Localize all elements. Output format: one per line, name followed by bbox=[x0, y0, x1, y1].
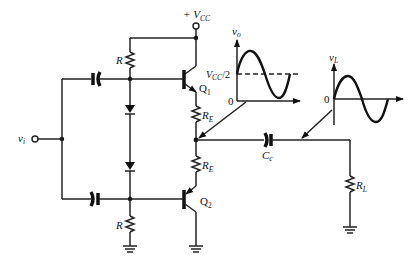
svg-text:Q2: Q2 bbox=[200, 195, 212, 210]
vcc-terminal: + VCC bbox=[183, 8, 211, 38]
svg-text:Q1: Q1 bbox=[199, 82, 211, 97]
svg-text:VCC/2: VCC/2 bbox=[206, 69, 230, 82]
capacitor-input-bottom bbox=[91, 192, 98, 206]
svg-text:R: R bbox=[115, 54, 123, 66]
svg-text:+ VCC: + VCC bbox=[183, 8, 211, 23]
ground-icon-r bbox=[123, 246, 137, 252]
capacitor-input-top bbox=[93, 72, 100, 86]
svg-text:RL: RL bbox=[355, 179, 367, 194]
waveform-vl: vL 0 bbox=[324, 51, 403, 125]
resistor-r-bottom: R bbox=[115, 199, 134, 246]
svg-text:vi: vi bbox=[18, 132, 25, 146]
svg-text:vL: vL bbox=[329, 51, 338, 65]
input-terminal: vi bbox=[18, 132, 64, 146]
diode-d2 bbox=[125, 162, 135, 171]
resistor-r-top: R bbox=[115, 38, 134, 79]
top-rail-wire bbox=[130, 36, 198, 66]
vl-pointer-arrow bbox=[302, 110, 332, 138]
circuit-diagram: + VCC R Q1 vi bbox=[0, 0, 416, 268]
diode-d1 bbox=[125, 105, 135, 114]
transistor-q2: Q2 bbox=[184, 186, 212, 212]
svg-text:R: R bbox=[115, 219, 123, 231]
svg-text:RE: RE bbox=[201, 109, 214, 124]
resistor-rl: RL bbox=[346, 140, 367, 227]
svg-text:RE: RE bbox=[201, 159, 214, 174]
ground-icon-rl bbox=[343, 227, 357, 233]
resistor-re-top: RE bbox=[192, 92, 214, 140]
svg-text:0: 0 bbox=[228, 95, 234, 107]
ground-icon-q2 bbox=[189, 246, 203, 252]
capacitor-cc: Cc bbox=[262, 133, 273, 163]
waveform-vo: vo 0 VCC/2 bbox=[206, 25, 300, 107]
svg-text:vo: vo bbox=[232, 25, 241, 39]
svg-text:0: 0 bbox=[324, 93, 330, 105]
svg-text:Cc: Cc bbox=[262, 149, 273, 163]
resistor-re-bottom: RE bbox=[192, 140, 214, 186]
